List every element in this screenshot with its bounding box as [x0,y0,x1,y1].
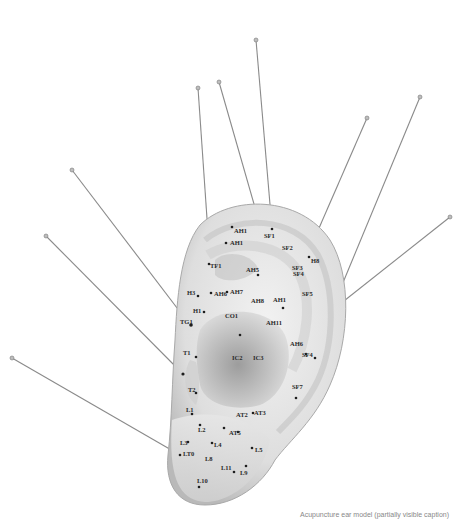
acupoint-label: TF1 [210,262,222,269]
earlobe [171,415,270,502]
ear-model-illustration: AH1AH1SF1SF2SF3H8TF1AH5SF4AH1SF5H3AH6AH7… [0,0,473,527]
acupoint-label: T1 [183,349,191,356]
acupoint-label: SF2 [282,244,293,251]
acupoint-label: SF7 [292,383,304,390]
acupoint-label: SF1 [264,232,275,239]
acupoint-label: L9 [240,469,248,476]
acupoint-label: L2 [198,426,206,433]
photo-stage: AH1AH1SF1SF2SF3H8TF1AH5SF4AH1SF5H3AH6AH7… [0,0,473,527]
acupoint-label: H8 [311,257,320,264]
acupoint-label: L10 [197,477,208,484]
acupoint-label: H3 [187,289,196,296]
acupoint-label: L5 [255,446,263,453]
acupoint-label: AH6 [214,290,228,297]
acupoint-label: AH1 [230,239,243,246]
acupoint-label: AT2 [236,411,248,418]
acupoint-label: SF4 [302,351,314,358]
acupoint-label: H1 [193,307,201,314]
concha [197,312,289,408]
acupoint-label: L1 [186,406,194,413]
acupoint-label: AH1 [234,227,247,234]
acupoint-label: CO1 [225,312,238,319]
acupoint-label: L3 [180,439,188,446]
acupoint-label: AT5 [229,429,242,436]
acupoint-label: L11 [221,464,231,471]
acupoint-label: IC2 [232,354,242,361]
acupoint-label: SF5 [302,290,314,297]
acupoint-label: AT3 [254,409,267,416]
acupoint-label: AH8 [251,297,265,304]
acupoint-label: AH11 [266,319,282,326]
acupoint-label: L8 [205,455,213,462]
acupoint-label: AH1 [273,296,286,303]
acupoint-label: LT0 [183,450,194,457]
acupoint-label: AH7 [230,288,244,295]
acupoint-label: AH5 [246,266,260,273]
acupoint-label: SF4 [293,270,305,277]
acupoint-label: IC3 [253,354,264,361]
acupoint-label: L4 [214,441,222,448]
acupoint-label: T2 [188,386,196,393]
caption: Acupuncture ear model (partially visible… [300,511,449,518]
acupoint-label: AH6 [290,340,304,347]
acupoint-label: TG1 [180,318,193,325]
